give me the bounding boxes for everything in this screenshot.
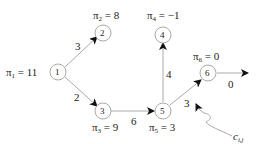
pi-subscript: 3 — [98, 127, 102, 135]
pi-subscript: 1 — [12, 72, 16, 80]
edge-cost-5-4: 4 — [166, 68, 172, 80]
potential-value: = 3 — [161, 121, 175, 133]
node-4-label: 4 — [160, 29, 165, 41]
annotation-subscript: i,j — [238, 136, 244, 144]
node-2-label: 2 — [100, 27, 105, 39]
edge-cost-1-2: 3 — [75, 40, 81, 52]
pi-subscript: 2 — [99, 15, 103, 23]
edge-1-2 — [65, 37, 97, 67]
potential-value: = 8 — [105, 9, 119, 21]
pi-subscript: 6 — [199, 56, 203, 64]
potential-1: π1 = 11 — [6, 66, 37, 82]
potential-value: = 11 — [18, 66, 38, 78]
node-1-label: 1 — [55, 66, 60, 78]
potential-value: = 9 — [104, 121, 118, 133]
cost-annotation: ci,j — [233, 130, 244, 144]
annotation-squiggle — [196, 104, 232, 136]
edge-cost-6-out: 0 — [228, 78, 234, 90]
node-5-label: 5 — [160, 105, 165, 117]
potential-6: π6 = 0 — [193, 50, 219, 66]
potential-value: = −1 — [159, 9, 180, 21]
potential-2: π2 = 8 — [93, 9, 119, 25]
node-6-label: 6 — [205, 67, 210, 79]
graph-edges — [0, 0, 260, 144]
pi-subscript: 5 — [155, 127, 159, 135]
edge-cost-3-5: 6 — [131, 115, 137, 127]
node-3-label: 3 — [100, 105, 105, 117]
pi-subscript: 4 — [153, 15, 157, 23]
potential-5: π5 = 3 — [149, 121, 175, 137]
edge-cost-1-3: 2 — [74, 91, 80, 103]
edge-cost-5-6: 3 — [184, 97, 190, 109]
potential-3: π3 = 9 — [92, 121, 118, 137]
network-diagram: 1 2 3 4 5 6 π1 = 11 π2 = 8 π3 = 9 π4 = −… — [0, 0, 260, 144]
potential-4: π4 = −1 — [147, 9, 179, 25]
potential-value: = 0 — [205, 50, 219, 62]
edge-1-3 — [65, 77, 97, 106]
